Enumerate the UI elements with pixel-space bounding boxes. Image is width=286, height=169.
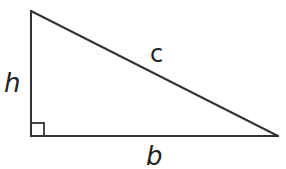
right-triangle-diagram: h c b — [0, 0, 286, 169]
right-angle-marker — [31, 123, 44, 136]
label-hypotenuse: c — [150, 40, 163, 68]
label-base: b — [146, 141, 163, 169]
label-height: h — [4, 68, 20, 98]
side-hypotenuse — [31, 11, 278, 136]
